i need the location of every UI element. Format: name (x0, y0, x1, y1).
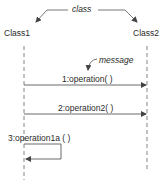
class-annotation-label: class (72, 5, 91, 14)
lifeline-label-class2: Class2 (133, 29, 159, 38)
message-arrow-3-self (24, 144, 61, 159)
message-annotation-label: message (99, 56, 134, 65)
lifeline-label-class1: Class1 (4, 29, 30, 38)
message-label-2: 2:operation2( ) (58, 104, 113, 113)
message-label-3: 3:operation1a ( ) (8, 134, 70, 143)
message-annotation-pointer (88, 59, 97, 70)
message-label-1: 1:operation( ) (62, 75, 113, 84)
